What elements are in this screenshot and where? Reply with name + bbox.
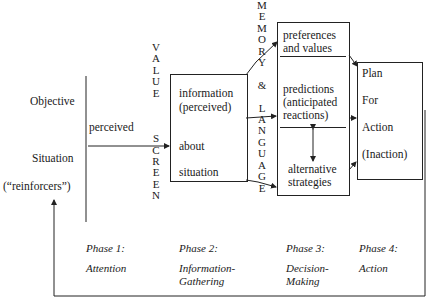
vertical-letter: U [150, 76, 162, 87]
info-line-3: about [179, 140, 205, 153]
objective-label: Objective [30, 95, 75, 108]
alternatives-line-1: alternative [288, 163, 337, 176]
alternatives-line-2: strategies [288, 176, 331, 189]
phase-2-name-line-2: Gathering [179, 274, 224, 288]
vertical-letter [256, 91, 268, 102]
phase-3-name-line-2: Making [286, 274, 320, 288]
vertical-letter: O [256, 34, 268, 45]
value-screen-label: VALUE SCREEN [150, 42, 162, 202]
vertical-letter: G [256, 171, 268, 182]
info-line-4: situation [179, 166, 219, 179]
information-box: information (perceived) about situation [170, 74, 248, 182]
vertical-letter: E [256, 183, 268, 194]
action-line-2: For [362, 94, 378, 107]
decision-divider-1 [280, 56, 346, 57]
plan-for-action-box: Plan For Action (Inaction) [357, 62, 423, 180]
decision-divider-2 [280, 127, 346, 128]
arrow-preferences-to-plan [349, 55, 357, 66]
phase-4-title: Phase 4: [359, 241, 398, 255]
perceived-label: perceived [89, 121, 134, 134]
info-line-1: information [179, 87, 233, 100]
phase-4-name: Action [359, 261, 388, 275]
action-line-3: Action [362, 121, 393, 134]
vertical-letter: S [150, 133, 162, 144]
decision-box: preferences and values predictions (anti… [277, 22, 350, 196]
memory-language-label: MEMORY & LANGUAGE [256, 0, 268, 194]
preferences-line-2: and values [283, 42, 332, 55]
phase-2-name-line-1: Information- [179, 261, 235, 275]
vertical-letter: N [150, 190, 162, 201]
predictions-line-3: reactions) [283, 109, 328, 122]
phase-3-name-line-1: Decision- [286, 261, 329, 275]
action-line-1: Plan [362, 67, 382, 80]
action-line-4: (Inaction) [362, 148, 407, 161]
phase-1-title: Phase 1: [86, 241, 125, 255]
reinforcers-label: (“reinforcers”) [3, 180, 71, 193]
phase-1-name: Attention [86, 261, 126, 275]
arrow-alternatives-to-plan [349, 162, 356, 170]
predictions-line-1: predictions [283, 83, 334, 96]
preferences-line-1: preferences [283, 29, 336, 42]
situation-label: Situation [32, 152, 74, 165]
vertical-letter: U [256, 148, 268, 159]
predictions-line-2: (anticipated [283, 96, 337, 109]
phase-3-title: Phase 3: [286, 241, 325, 255]
phase-2-title: Phase 2: [179, 241, 218, 255]
info-line-2: (perceived) [179, 101, 231, 114]
